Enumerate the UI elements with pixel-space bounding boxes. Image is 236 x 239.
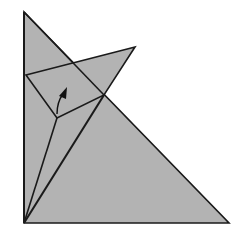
- origami-diagram: [0, 0, 236, 239]
